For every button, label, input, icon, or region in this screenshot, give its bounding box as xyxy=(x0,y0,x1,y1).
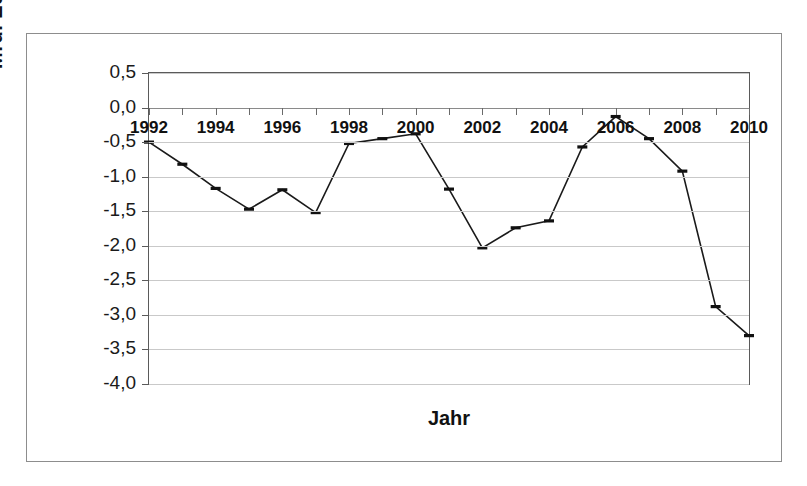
data-series xyxy=(149,73,749,384)
y-axis-tick-label: -1,0 xyxy=(103,165,136,187)
gridline xyxy=(149,384,749,385)
y-axis-tick xyxy=(142,142,149,143)
x-axis-tick xyxy=(149,108,150,115)
y-axis-tick xyxy=(142,108,149,109)
y-axis-tick xyxy=(142,315,149,316)
x-axis-tick xyxy=(349,108,350,115)
gridline xyxy=(149,73,749,74)
chart-screenshot: Mrd. Euro 0,50,0-0,5-1,0-1,5-2,0-2,5-3,0… xyxy=(0,0,807,486)
x-axis-tick-label: 2000 xyxy=(397,118,435,138)
x-axis-tick xyxy=(316,108,317,115)
x-axis-tick xyxy=(282,108,283,115)
y-axis-tick xyxy=(142,73,149,74)
x-axis-tick xyxy=(216,108,217,115)
x-axis-tick-label: 2002 xyxy=(463,118,501,138)
gridline xyxy=(149,246,749,247)
x-axis-tick xyxy=(682,108,683,115)
x-axis-tick xyxy=(449,108,450,115)
y-axis-tick-label: 0,0 xyxy=(110,96,136,118)
x-axis-tick xyxy=(749,108,750,115)
y-axis-tick-label: -4,0 xyxy=(103,372,136,394)
x-axis-tick xyxy=(482,108,483,115)
x-axis-tick xyxy=(249,108,250,115)
x-axis-tick xyxy=(549,108,550,115)
gridline xyxy=(149,349,749,350)
x-axis-tick-label: 2004 xyxy=(530,118,568,138)
y-axis-tick-label: -3,5 xyxy=(103,337,136,359)
x-axis-tick xyxy=(382,108,383,115)
x-axis-tick-label: 1994 xyxy=(197,118,235,138)
gridline xyxy=(149,142,749,143)
y-axis-tick xyxy=(142,349,149,350)
y-axis-tick xyxy=(142,211,149,212)
x-axis-tick xyxy=(416,108,417,115)
x-axis-tick-label: 1992 xyxy=(130,118,168,138)
y-axis-tick-label: -1,5 xyxy=(103,199,136,221)
y-axis-tick xyxy=(142,384,149,385)
x-axis-tick-label: 2008 xyxy=(663,118,701,138)
series-line xyxy=(149,117,749,336)
gridline xyxy=(149,177,749,178)
x-axis-tick xyxy=(516,108,517,115)
x-axis-tick-label: 2010 xyxy=(730,118,768,138)
plot-area: 1992199419961998200020022004200620082010 xyxy=(148,72,750,385)
x-axis-title: Jahr xyxy=(148,407,750,430)
gridline xyxy=(149,315,749,316)
x-axis-tick-label: 1996 xyxy=(263,118,301,138)
y-axis-tick-label: -3,0 xyxy=(103,303,136,325)
y-axis-tick-label: 0,5 xyxy=(110,61,136,83)
x-axis-tick-label: 1998 xyxy=(330,118,368,138)
y-axis-tick xyxy=(142,177,149,178)
y-axis-title: Mrd. Euro xyxy=(0,0,7,150)
x-axis-tick xyxy=(182,108,183,115)
x-axis-tick xyxy=(616,108,617,115)
x-axis-tick xyxy=(649,108,650,115)
x-axis-tick xyxy=(716,108,717,115)
gridline xyxy=(149,211,749,212)
x-axis-tick xyxy=(582,108,583,115)
y-axis-tick xyxy=(142,280,149,281)
gridline xyxy=(149,280,749,281)
x-axis-tick-label: 2006 xyxy=(597,118,635,138)
y-axis-tick-label: -2,5 xyxy=(103,268,136,290)
y-axis-tick xyxy=(142,246,149,247)
y-axis-tick-label: -2,0 xyxy=(103,234,136,256)
